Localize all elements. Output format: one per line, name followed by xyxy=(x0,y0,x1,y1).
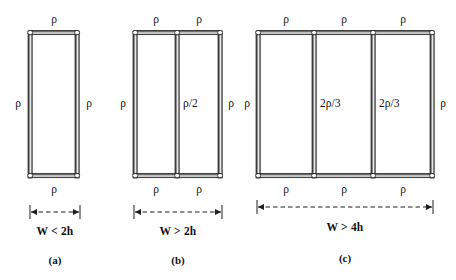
caption-c: (c) xyxy=(339,253,351,264)
label-top-rho-c3: ρ xyxy=(400,14,406,25)
beam-top-1 xyxy=(257,31,315,35)
figure-canvas: ρ ρ ρ ρ W < 2h (a) xyxy=(0,0,456,280)
beam-bottom-2 xyxy=(314,174,374,178)
panel-a-drawing xyxy=(0,0,115,280)
column-inner-2 xyxy=(371,31,375,178)
column-right xyxy=(218,31,222,178)
caption-b: (b) xyxy=(171,255,184,266)
beam-bottom-1 xyxy=(257,174,315,178)
column-right xyxy=(75,31,79,178)
beam-top-3 xyxy=(373,31,433,35)
label-top-rho-c2: ρ xyxy=(341,14,347,25)
panel-a: ρ ρ ρ ρ W < 2h (a) xyxy=(0,0,115,280)
beam-bottom-left xyxy=(134,174,178,178)
label-left-rho-b: ρ xyxy=(120,98,126,109)
label-top-rho-b1: ρ xyxy=(153,14,159,25)
caption-a: (a) xyxy=(49,255,62,266)
panel-c-drawing xyxy=(240,0,456,280)
beam-bottom-right xyxy=(177,174,221,178)
panel-c: ρ ρ ρ ρ ρ ρ ρ ρ 2ρ/3 2ρ/3 W > 4h (c) xyxy=(240,0,456,280)
column-left xyxy=(256,31,260,178)
dimension-line-c xyxy=(257,200,433,214)
column-right xyxy=(430,31,434,178)
dimension-line-b xyxy=(134,205,222,219)
joint-markers xyxy=(28,30,80,177)
label-bottom-rho-b2: ρ xyxy=(196,184,202,195)
label-top-rho-b2: ρ xyxy=(196,14,202,25)
label-bottom-rho-c1: ρ xyxy=(283,184,289,195)
condition-label-b: W > 2h xyxy=(160,226,197,237)
label-bottom-rho-c3: ρ xyxy=(400,184,406,195)
panel-b: ρ ρ ρ ρ ρ ρ ρ/2 W > 2h (b) xyxy=(115,0,240,280)
label-top-rho-c1: ρ xyxy=(283,14,289,25)
column-left xyxy=(28,31,32,178)
beam-top xyxy=(29,31,78,35)
beam-top-right xyxy=(177,31,221,35)
beam-bottom xyxy=(29,174,78,178)
column-left xyxy=(133,31,137,178)
column-middle xyxy=(175,31,179,178)
label-bottom-rho-a1: ρ xyxy=(51,184,57,195)
label-bottom-rho-c2: ρ xyxy=(341,184,347,195)
beam-top-left xyxy=(134,31,178,35)
label-right-rho-a: ρ xyxy=(86,98,92,109)
label-interior-c2: 2ρ/3 xyxy=(379,98,399,109)
label-interior-b1: ρ/2 xyxy=(183,98,198,109)
label-bottom-rho-b1: ρ xyxy=(153,184,159,195)
label-left-rho-c: ρ xyxy=(244,98,250,109)
label-right-rho-c: ρ xyxy=(440,98,446,109)
label-interior-c1: 2ρ/3 xyxy=(320,98,340,109)
label-right-rho-b: ρ xyxy=(228,98,234,109)
beam-top-2 xyxy=(314,31,374,35)
label-top-rho-a1: ρ xyxy=(51,14,57,25)
label-left-rho-a: ρ xyxy=(15,98,21,109)
condition-label-c: W > 4h xyxy=(327,222,364,233)
column-inner-1 xyxy=(312,31,316,178)
panel-b-drawing xyxy=(115,0,240,280)
joint-markers xyxy=(256,30,435,177)
dimension-line-a xyxy=(30,205,80,219)
beam-bottom-3 xyxy=(373,174,433,178)
condition-label-a: W < 2h xyxy=(37,226,74,237)
